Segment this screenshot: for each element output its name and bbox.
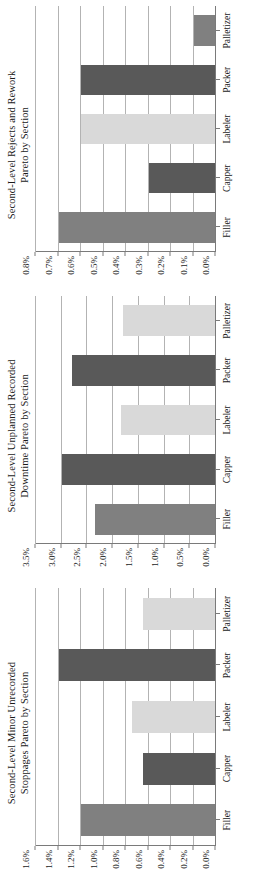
y-axis-tick-mark (80, 846, 81, 850)
y-axis-tick-mark (35, 544, 36, 548)
x-axis-tick-mark (216, 369, 220, 370)
x-axis-tick-mark (216, 30, 220, 31)
y-axis-tick-mark (192, 252, 193, 256)
y-axis-tick-mark (57, 252, 58, 256)
y-axis-tick-mark (137, 544, 138, 548)
x-axis-category-label: Filler (222, 217, 232, 238)
y-axis-tick-mark (170, 252, 171, 256)
bar-packer[interactable] (81, 65, 215, 96)
y-axis-tick-mark (189, 544, 190, 548)
x-axis-tick-mark (216, 664, 220, 665)
bar-labeler[interactable] (121, 405, 215, 436)
x-axis-category-label: Palletizer (222, 596, 232, 632)
chart-rotor: Second-Level Rejects and Rework Pareto b… (0, 0, 256, 290)
chart-inner: Second-Level Unplanned Recorded Downtime… (0, 290, 256, 582)
x-axis-category-label: Packer (222, 67, 232, 93)
x-axis-line (215, 6, 216, 252)
y-axis-tick-label: 0.0% (201, 850, 211, 869)
gridline (86, 296, 87, 544)
y-axis-tick-mark (215, 252, 216, 256)
x-axis-line (215, 296, 216, 544)
y-axis-tick-mark (102, 252, 103, 256)
y-axis-tick-mark (125, 252, 126, 256)
chart-panel-minor-stoppages: Second-Level Minor Unrecorded Stoppages … (0, 582, 256, 884)
y-axis-tick-label: 0.2% (156, 256, 166, 275)
x-axis-category-label: Capper (222, 456, 232, 483)
y-axis-tick-mark (80, 252, 81, 256)
y-axis-line (36, 543, 216, 544)
y-axis-tick-label: 0.6% (134, 850, 144, 869)
y-axis-tick-label: 0.7% (44, 256, 54, 275)
y-axis-tick-label: 0.2% (179, 850, 189, 869)
chart-panel-unplanned-downtime: Second-Level Unplanned Recorded Downtime… (0, 290, 256, 582)
y-axis-tick-mark (170, 846, 171, 850)
y-axis-tick-label: 0.5% (175, 548, 185, 567)
x-axis-tick-mark (216, 79, 220, 80)
y-axis-tick-label: 0.0% (201, 256, 211, 275)
plot-area: 0.0%0.1%0.2%0.3%0.4%0.5%0.6%0.7%0.8%Fill… (36, 6, 216, 252)
gridline (61, 296, 62, 544)
bar-palletizer[interactable] (123, 305, 215, 336)
x-axis-tick-mark (216, 128, 220, 129)
y-axis-line (36, 845, 216, 846)
y-axis-tick-label: 0.8% (111, 850, 121, 869)
y-axis-tick-label: 0.4% (156, 850, 166, 869)
bar-capper[interactable] (143, 753, 215, 785)
bar-packer[interactable] (59, 649, 216, 681)
bar-palletizer[interactable] (194, 15, 216, 46)
y-axis-tick-mark (86, 544, 87, 548)
y-axis-tick-label: 0.8% (21, 256, 31, 275)
x-axis-category-label: Labeler (222, 702, 232, 731)
gridline (35, 588, 36, 846)
y-axis-line (36, 251, 216, 252)
chart-title: Second-Level Rejects and Rework Pareto b… (5, 0, 31, 290)
x-axis-category-label: Palletizer (222, 13, 232, 49)
bar-filler[interactable] (95, 504, 215, 535)
bar-filler[interactable] (81, 804, 215, 836)
y-axis-tick-mark (147, 252, 148, 256)
x-axis-tick-mark (216, 613, 220, 614)
y-axis-tick-label: 3.0% (47, 548, 57, 567)
y-axis-tick-mark (192, 846, 193, 850)
chart-title: Second-Level Minor Unrecorded Stoppages … (5, 582, 31, 884)
chart-panel-rejects-rework: Second-Level Rejects and Rework Pareto b… (0, 0, 256, 290)
x-axis-category-label: Labeler (222, 114, 232, 143)
y-axis-tick-mark (60, 544, 61, 548)
y-axis-tick-mark (215, 544, 216, 548)
y-axis-tick-label: 1.0% (150, 548, 160, 567)
bar-palletizer[interactable] (143, 598, 215, 630)
x-axis-category-label: Capper (222, 164, 232, 191)
bar-labeler[interactable] (132, 701, 215, 733)
y-axis-tick-mark (147, 846, 148, 850)
y-axis-tick-label: 0.5% (89, 256, 99, 275)
bar-filler[interactable] (59, 212, 216, 243)
x-axis-category-label: Filler (222, 810, 232, 831)
x-axis-category-label: Palletizer (222, 303, 232, 339)
chart-rotor: Second-Level Unplanned Recorded Downtime… (0, 290, 256, 582)
y-axis-tick-label: 0.1% (179, 256, 189, 275)
x-axis-tick-mark (216, 320, 220, 321)
chart-rotor: Second-Level Minor Unrecorded Stoppages … (0, 582, 256, 884)
y-axis-tick-label: 1.6% (21, 850, 31, 869)
x-axis-tick-mark (216, 768, 220, 769)
y-axis-tick-label: 0.6% (66, 256, 76, 275)
x-axis-category-label: Labeler (222, 405, 232, 434)
y-axis-tick-label: 2.5% (72, 548, 82, 567)
bar-packer[interactable] (72, 355, 215, 386)
bar-capper[interactable] (149, 163, 216, 194)
chart-inner: Second-Level Rejects and Rework Pareto b… (0, 0, 256, 290)
x-axis-tick-mark (216, 419, 220, 420)
x-axis-tick-mark (216, 819, 220, 820)
gridline (35, 296, 36, 544)
y-axis-tick-mark (125, 846, 126, 850)
bar-labeler[interactable] (81, 114, 215, 145)
x-axis-tick-mark (216, 518, 220, 519)
y-axis-tick-mark (112, 544, 113, 548)
y-axis-tick-label: 0.0% (201, 548, 211, 567)
x-axis-tick-mark (216, 177, 220, 178)
plot-area: 0.0%0.2%0.4%0.6%0.8%1.0%1.2%1.4%1.6%Fill… (36, 588, 216, 846)
x-axis-category-label: Packer (222, 652, 232, 678)
bar-capper[interactable] (62, 454, 215, 485)
x-axis-category-label: Packer (222, 357, 232, 383)
x-axis-line (215, 588, 216, 846)
